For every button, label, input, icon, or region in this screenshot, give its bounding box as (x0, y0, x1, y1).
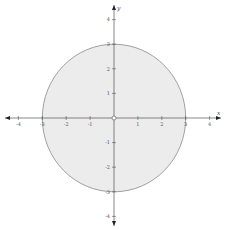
y-tick-label: -1 (105, 139, 110, 145)
x-axis-right-arrow-icon (216, 116, 221, 120)
x-tick-label: -4 (16, 121, 21, 127)
x-tick-label: -3 (40, 121, 45, 127)
x-tick-label: 1 (136, 121, 139, 127)
open-circle-icon (112, 116, 116, 120)
y-axis-up-arrow-icon (112, 5, 116, 10)
y-tick-label: 3 (107, 41, 110, 47)
y-axis-label: y (116, 4, 121, 12)
x-tick-label: 3 (184, 121, 187, 127)
x-axis-label: x (217, 109, 221, 116)
y-tick-label: -2 (105, 164, 110, 170)
x-tick-label: -2 (64, 121, 69, 127)
y-tick-label: 4 (107, 16, 110, 22)
y-tick-label: 2 (107, 66, 110, 72)
x-tick-label: -1 (88, 121, 93, 127)
region-plot: xy-4-3-2-11234-4-3-2-11234 (0, 0, 226, 230)
x-axis-left-arrow-icon (5, 116, 10, 120)
x-tick-label: 2 (160, 121, 163, 127)
x-tick-label: 4 (208, 121, 211, 127)
y-tick-label: -3 (105, 189, 110, 195)
y-tick-label: 1 (107, 90, 110, 96)
open-origin-point (112, 116, 116, 120)
y-axis-down-arrow-icon (112, 221, 116, 226)
y-tick-label: -4 (105, 213, 110, 219)
